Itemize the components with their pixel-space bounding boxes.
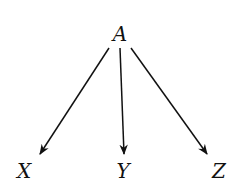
edge-a-x: [40, 48, 109, 154]
edge-a-z: [131, 48, 207, 154]
diagram-canvas: A X Y Z: [0, 0, 249, 192]
edge-a-y: [120, 48, 124, 154]
node-x: X: [17, 161, 31, 181]
node-y: Y: [116, 161, 129, 181]
node-a: A: [113, 24, 127, 44]
node-z: Z: [212, 161, 226, 181]
